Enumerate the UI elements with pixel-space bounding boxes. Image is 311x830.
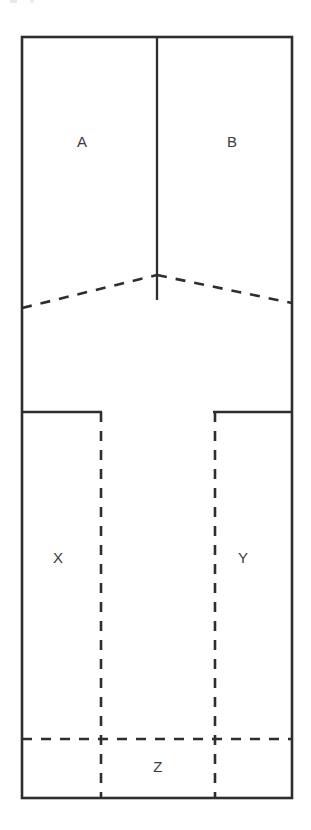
scan-artifact-marks <box>10 0 34 3</box>
region-label-b: B <box>227 133 237 150</box>
region-label-y: Y <box>238 549 248 566</box>
region-label-a: A <box>77 133 87 150</box>
region-label-x: X <box>53 549 63 566</box>
region-label-z: Z <box>153 758 162 775</box>
diagram-canvas: A B X Y Z <box>0 0 311 830</box>
partition-diagram: A B X Y Z <box>0 0 311 830</box>
roof-left-dashed-line <box>22 275 157 308</box>
roof-right-dashed-line <box>157 275 292 303</box>
